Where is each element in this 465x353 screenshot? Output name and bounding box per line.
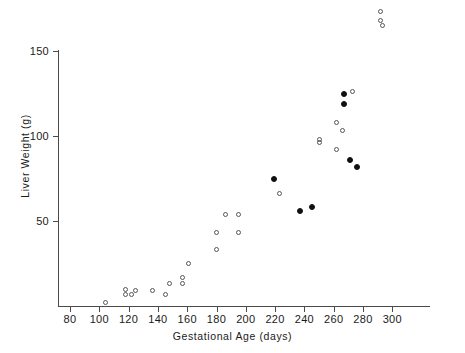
x-tick-200 <box>246 307 247 312</box>
data-point <box>317 140 322 145</box>
data-point <box>123 287 128 292</box>
x-tick-140 <box>158 307 159 312</box>
data-point <box>347 157 353 163</box>
data-point <box>340 128 345 133</box>
data-point <box>180 281 185 286</box>
y-tick-150 <box>53 51 58 52</box>
data-point <box>277 191 282 196</box>
data-point <box>341 91 347 97</box>
data-point <box>150 288 155 293</box>
data-point <box>378 9 383 14</box>
data-point <box>380 23 385 28</box>
x-axis-line <box>58 306 430 307</box>
x-tick-100 <box>99 307 100 312</box>
y-tick-50 <box>53 221 58 222</box>
x-tick-280 <box>363 307 364 312</box>
x-tick-260 <box>334 307 335 312</box>
x-tick-label-300: 300 <box>372 313 412 326</box>
data-point <box>334 147 339 152</box>
data-point <box>214 247 219 252</box>
x-tick-300 <box>392 307 393 312</box>
data-point <box>103 300 108 305</box>
data-point <box>223 212 228 217</box>
y-axis-title: Liver Weight (g) <box>19 86 31 226</box>
data-point <box>163 292 168 297</box>
x-tick-220 <box>275 307 276 312</box>
y-tick-label-150: 150 <box>13 45 49 57</box>
data-point <box>341 101 347 107</box>
data-point <box>133 288 138 293</box>
data-point <box>180 275 185 280</box>
data-point <box>167 281 172 286</box>
x-tick-240 <box>304 307 305 312</box>
x-tick-80 <box>70 307 71 312</box>
data-point <box>214 230 219 235</box>
y-axis-line <box>58 50 59 307</box>
data-point <box>236 212 241 217</box>
data-point <box>236 230 241 235</box>
data-point <box>350 89 355 94</box>
data-point <box>354 164 360 170</box>
x-axis-title: Gestational Age (days) <box>0 330 465 342</box>
y-tick-100 <box>53 136 58 137</box>
data-point <box>186 261 191 266</box>
data-point <box>334 120 339 125</box>
data-point <box>297 208 303 214</box>
data-point <box>271 176 277 182</box>
x-tick-180 <box>217 307 218 312</box>
data-point <box>123 292 128 297</box>
scatter-plot-figure: 80100120140160180200220240260280300 5010… <box>0 0 465 353</box>
x-tick-160 <box>187 307 188 312</box>
x-tick-120 <box>129 307 130 312</box>
data-point <box>309 204 315 210</box>
